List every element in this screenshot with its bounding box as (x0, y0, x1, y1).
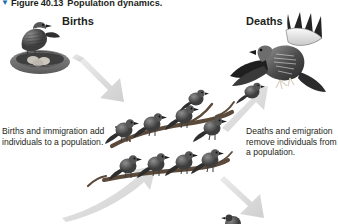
deaths-caption: Deaths and emigration remove individuals… (246, 126, 338, 158)
bird-on-nest (10, 22, 70, 74)
births-caption: Births and immigration add individuals t… (2, 126, 106, 147)
sparrow-upper-5 (180, 90, 209, 111)
sparrow-upper-2 (133, 113, 167, 138)
illustration-layer (0, 0, 338, 224)
figure-container: ▼Figure 40.13Population dynamics. (0, 0, 338, 224)
deaths-heading: Deaths (246, 15, 283, 27)
sparrow-flock-on-branch (88, 83, 265, 186)
births-heading: Births (62, 15, 94, 27)
hawk-upper-wing (286, 12, 322, 45)
sparrow-mid-right (236, 83, 265, 104)
sparrow-partial-bottom (221, 215, 241, 224)
sparrow-lower-2 (137, 153, 170, 178)
